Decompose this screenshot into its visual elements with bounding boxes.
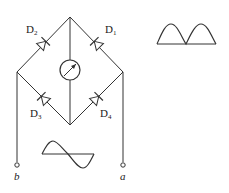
galvanometer-icon	[60, 60, 80, 80]
terminal-a-label: a	[120, 170, 126, 182]
label-d4: D4	[100, 107, 112, 121]
terminal-b	[15, 163, 19, 167]
rectified-wave-icon	[157, 24, 216, 44]
terminal-a	[121, 163, 125, 167]
diode-d1-icon	[90, 37, 104, 51]
label-d2: D2	[26, 23, 38, 37]
terminal-b-label: b	[14, 170, 20, 182]
label-d1: D1	[105, 23, 117, 37]
sine-wave-icon	[42, 141, 94, 168]
bridge-rectifier-diagram: D2 D1 D3 D4 b a	[0, 0, 229, 193]
diode-d2-icon	[36, 37, 50, 51]
label-d3: D3	[30, 107, 42, 121]
